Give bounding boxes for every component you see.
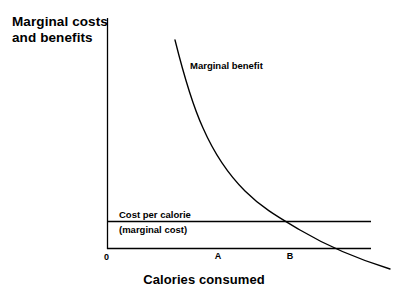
marginal-cost-label: (marginal cost)	[119, 224, 187, 235]
y-axis-title-line-1: Marginal costs	[12, 14, 108, 29]
origin-label: 0	[104, 252, 109, 263]
marginal-benefit-curve	[175, 40, 390, 269]
cost-per-calorie-label: Cost per calorie	[119, 209, 191, 220]
y-axis-title-line-2: and benefits	[12, 30, 93, 45]
x-tick-label-b: B	[287, 251, 294, 262]
x-axis-title: Calories consumed	[143, 272, 265, 287]
x-tick-label-a: A	[215, 251, 222, 262]
marginal-cost-benefit-chart: Marginal costsand benefits Marginal bene…	[0, 0, 405, 294]
y-axis-title: Marginal costsand benefits	[12, 14, 108, 46]
marginal-benefit-label: Marginal benefit	[190, 60, 263, 71]
